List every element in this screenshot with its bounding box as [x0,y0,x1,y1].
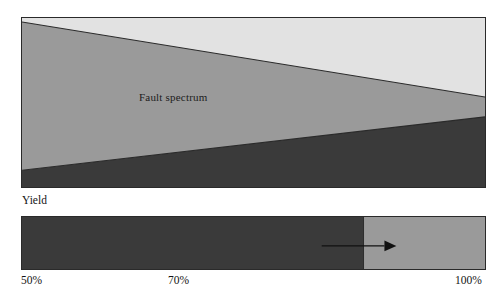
fault-spectrum-chart [22,18,485,187]
axis-tick-100: 100% [455,274,482,286]
axis-tick-50: 50% [21,274,42,286]
figure-root: Fault spectrum Yield 50% 70% 100% [0,0,503,307]
yield-bar-chart [22,217,485,269]
yield-label: Yield [22,194,47,206]
yield-segment-light [364,217,485,269]
axis-tick-row: 50% 70% 100% [0,274,503,296]
yield-segment-dark [22,217,364,269]
fault-spectrum-panel [21,17,486,188]
axis-tick-70: 70% [168,274,189,286]
yield-bar-panel [21,216,486,270]
